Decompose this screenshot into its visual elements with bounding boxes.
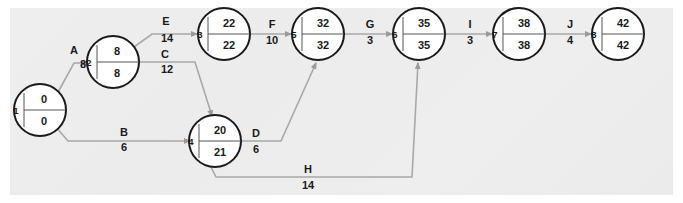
edge-I-duration: 3 — [467, 34, 473, 46]
edge-F-label: F — [269, 18, 276, 30]
edge-B-label: B — [120, 126, 128, 138]
edge-A-duration: 8 — [80, 58, 86, 70]
edge-J-label: J — [567, 18, 573, 30]
edge-J-duration: 4 — [567, 34, 574, 46]
edge-E: E 14 — [134, 15, 197, 47]
edge-D-label: D — [252, 127, 260, 139]
edge-I-label: I — [468, 18, 471, 30]
edge-D-duration: 6 — [253, 143, 259, 155]
node-2-early: 8 — [114, 45, 120, 57]
node-2-late: 8 — [114, 67, 120, 79]
edge-F-duration: 10 — [266, 34, 278, 46]
edge-C: C 12 — [139, 48, 212, 116]
edge-A-label: A — [70, 44, 78, 56]
node-8-late: 42 — [617, 39, 629, 51]
node-3[interactable]: 3 22 22 — [197, 8, 250, 60]
network-diagram-svg: A 8 B 6 C 12 E 14 F 10 D — [0, 0, 683, 203]
node-7-early: 38 — [518, 17, 530, 29]
node-2[interactable]: 2 8 8 — [86, 36, 139, 88]
edge-C-label: C — [161, 48, 169, 60]
edge-I: I 3 — [445, 18, 492, 46]
edge-A: A 8 — [57, 44, 88, 94]
node-2-id: 2 — [86, 57, 91, 68]
node-4[interactable]: 4 20 21 — [188, 115, 241, 167]
edge-J: J 4 — [545, 18, 591, 46]
edge-E-duration: 14 — [161, 32, 174, 44]
node-6[interactable]: 6 35 35 — [392, 8, 445, 60]
node-4-late: 21 — [214, 146, 226, 158]
node-7-id: 7 — [492, 29, 497, 40]
edge-D: D 6 — [241, 63, 316, 155]
node-8-id: 8 — [591, 29, 596, 40]
node-5-late: 32 — [317, 39, 329, 51]
node-1-early: 0 — [41, 93, 47, 105]
node-6-early: 35 — [418, 17, 430, 29]
edge-E-label: E — [162, 15, 169, 27]
node-8[interactable]: 8 42 42 — [591, 8, 644, 60]
node-4-early: 20 — [214, 124, 226, 136]
node-4-id: 4 — [188, 136, 194, 147]
network-diagram-canvas: A 8 B 6 C 12 E 14 F 10 D — [0, 0, 683, 203]
edge-G: G 3 — [344, 18, 392, 46]
edge-G-duration: 3 — [367, 34, 373, 46]
edge-H-duration: 14 — [302, 179, 315, 191]
edge-H-label: H — [304, 163, 312, 175]
node-7[interactable]: 7 38 38 — [492, 8, 545, 60]
node-1-late: 0 — [41, 115, 47, 127]
node-8-early: 42 — [617, 17, 629, 29]
node-5-id: 5 — [291, 29, 297, 40]
edge-F: F 10 — [250, 18, 291, 46]
node-1[interactable]: 1 0 0 — [13, 84, 66, 136]
node-3-late: 22 — [223, 39, 235, 51]
edge-C-duration: 12 — [161, 63, 173, 75]
node-6-late: 35 — [418, 39, 430, 51]
edge-G-label: G — [366, 18, 375, 30]
edge-B-duration: 6 — [121, 141, 127, 153]
node-3-early: 22 — [223, 17, 235, 29]
node-3-id: 3 — [197, 29, 202, 40]
node-1-id: 1 — [13, 105, 19, 116]
node-6-id: 6 — [392, 29, 397, 40]
node-7-late: 38 — [518, 39, 530, 51]
node-5[interactable]: 5 32 32 — [291, 8, 344, 60]
edge-B: B 6 — [55, 126, 190, 153]
node-5-early: 32 — [317, 17, 329, 29]
